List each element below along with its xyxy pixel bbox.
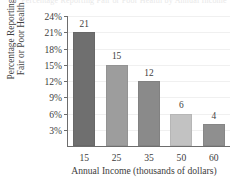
bar-chart: Percentage Reporting Fair or Poor Health…	[0, 0, 248, 179]
bar-slot: 21	[73, 16, 95, 146]
plot-area: 3%6%9%12%15%18%21%24% 21151264 152535506…	[67, 16, 230, 147]
bar-slot: 15	[106, 16, 128, 146]
bar[interactable]	[73, 32, 95, 146]
y-axis-tick-label: 9%	[49, 92, 62, 103]
bar-slot: 4	[203, 16, 225, 146]
y-axis-tick-label: 12%	[44, 76, 62, 87]
bar[interactable]	[106, 65, 128, 146]
y-axis-tick-label: 21%	[44, 27, 62, 38]
bar-series: 21151264	[68, 16, 230, 146]
x-axis-tick-label: 15	[79, 152, 89, 163]
bar-value-label: 12	[138, 69, 160, 78]
x-axis-tick-label: 60	[209, 152, 219, 163]
bar-value-label: 15	[106, 52, 128, 61]
y-axis-tick-label: 6%	[49, 108, 62, 119]
bar-value-label: 6	[170, 101, 192, 110]
y-axis-tick-label: 24%	[44, 11, 62, 22]
bar-slot: 6	[170, 16, 192, 146]
x-axis-tick-label: 25	[112, 152, 122, 163]
bar[interactable]	[170, 114, 192, 147]
bar[interactable]	[203, 124, 225, 146]
y-axis-tick-label: 15%	[44, 59, 62, 70]
bar-value-label: 4	[203, 112, 225, 121]
y-axis-tick-label: 3%	[49, 124, 62, 135]
x-axis-title: Annual Income (thousands of dollars)	[40, 165, 248, 176]
y-axis-title-line-1: Percentage Reporting	[6, 0, 16, 79]
bar-value-label: 21	[73, 20, 95, 29]
bar[interactable]	[138, 81, 160, 146]
y-axis-title: Percentage Reporting Fair or Poor Health	[0, 0, 32, 98]
x-axis-tick-label: 50	[177, 152, 187, 163]
y-axis-tick-label: 18%	[44, 43, 62, 54]
x-axis-tick-label: 35	[144, 152, 154, 163]
y-axis-title-line-2: Fair or Poor Health	[16, 3, 26, 76]
chart-title: Percentage Reporting Fair or Poor Health…	[0, 0, 248, 6]
bar-slot: 12	[138, 16, 160, 146]
